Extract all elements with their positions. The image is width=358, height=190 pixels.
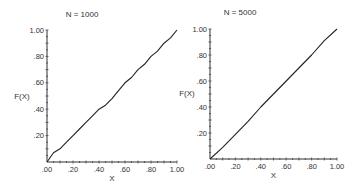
x-tick-label: .00 — [42, 165, 52, 174]
y-axis-label: F(X) — [14, 92, 30, 101]
x-tick-label: .80 — [146, 165, 156, 174]
y-tick-label: .40 — [197, 103, 207, 112]
y-tick-label: 1.00 — [29, 26, 44, 35]
chart-title: N = 1000 — [66, 10, 99, 19]
y-axis-label: F(X) — [179, 89, 195, 98]
chart-panel-1: .00.20.40.60.801.00.20.40.60.801.00N = 1… — [14, 10, 184, 183]
chart-title: N = 5000 — [224, 8, 257, 17]
y-tick-label: .80 — [197, 51, 207, 60]
y-tick-label: .80 — [34, 52, 44, 61]
y-tick-label: .20 — [197, 129, 207, 138]
x-tick-label: .20 — [68, 165, 78, 174]
y-tick-label: .60 — [197, 77, 207, 86]
x-tick-label: .00 — [205, 162, 215, 171]
x-tick-label: .80 — [306, 162, 316, 171]
cdf-line — [210, 29, 337, 159]
x-tick-label: 1.00 — [170, 165, 185, 174]
cdf-line — [47, 30, 177, 162]
x-tick-label: 1.00 — [330, 162, 345, 171]
x-tick-label: .40 — [94, 165, 104, 174]
x-tick-label: .60 — [281, 162, 291, 171]
y-tick-label: .40 — [34, 105, 44, 114]
x-axis-label: X — [271, 171, 277, 180]
y-tick-label: 1.00 — [192, 25, 207, 34]
x-tick-label: .20 — [230, 162, 240, 171]
x-tick-label: .40 — [256, 162, 266, 171]
y-tick-label: .20 — [34, 131, 44, 140]
x-axis-label: X — [109, 174, 115, 183]
x-tick-label: .60 — [120, 165, 130, 174]
chart-panel-2: .00.20.40.60.801.00.20.40.60.801.00N = 5… — [179, 8, 344, 180]
figure: .00.20.40.60.801.00.20.40.60.801.00N = 1… — [0, 0, 358, 190]
y-tick-label: .60 — [34, 78, 44, 87]
